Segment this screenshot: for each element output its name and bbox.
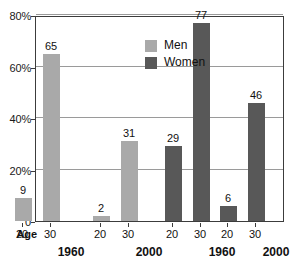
x-axis: Age 20302030203020301960200019602000 <box>0 223 294 264</box>
x-axis-year-label: 1960 <box>41 245 101 259</box>
bar-value-label: 77 <box>181 9 221 21</box>
y-axis-tick-label: 60% <box>0 62 31 74</box>
x-axis-age-label: 20 <box>215 228 239 240</box>
bar-women-1960-age20 <box>165 146 182 221</box>
plot-area: 9652312977646 MenWomen <box>35 16 284 222</box>
x-axis-year-label: 2000 <box>246 245 294 259</box>
x-axis-tick-mark <box>100 223 101 227</box>
legend-label: Men <box>164 39 187 52</box>
bar-chart: 80%60%40%20%0 9652312977646 MenWomen Age… <box>0 0 294 264</box>
x-axis-tick-mark <box>255 223 256 227</box>
x-axis-age-label: 30 <box>188 228 212 240</box>
bar-men-2000-age20 <box>93 216 110 221</box>
y-axis-tick-label: 20% <box>0 165 31 177</box>
x-axis-age-label: 30 <box>243 228 267 240</box>
legend-item-men: Men <box>145 39 205 52</box>
bar-value-label: 29 <box>153 132 193 144</box>
bar-women-2000-age20 <box>220 206 237 221</box>
gridline <box>36 117 283 118</box>
legend-swatch-women-icon <box>145 57 157 69</box>
legend-label: Women <box>164 56 205 69</box>
x-axis-tick-mark <box>22 223 23 227</box>
x-axis-year-label: 2000 <box>119 245 179 259</box>
x-axis-tick-mark <box>128 223 129 227</box>
bar-men-1960-age20 <box>15 198 32 221</box>
x-axis-age-label: 20 <box>10 228 34 240</box>
bar-value-label: 6 <box>208 192 248 204</box>
legend: MenWomen <box>145 39 205 69</box>
x-axis-tick-mark <box>227 223 228 227</box>
x-axis-year-label: 1960 <box>192 245 252 259</box>
y-axis-tick-label: 40% <box>0 113 31 125</box>
x-axis-age-label: 20 <box>160 228 184 240</box>
bar-value-label: 46 <box>236 89 276 101</box>
x-axis-tick-mark <box>50 223 51 227</box>
bar-women-2000-age30 <box>248 103 265 221</box>
x-axis-tick-mark <box>200 223 201 227</box>
bar-value-label: 31 <box>109 127 149 139</box>
bar-men-1960-age30 <box>43 54 60 221</box>
x-axis-tick-mark <box>172 223 173 227</box>
legend-swatch-men-icon <box>145 40 157 52</box>
bar-men-2000-age30 <box>121 141 138 221</box>
bar-value-label: 2 <box>81 202 121 214</box>
legend-item-women: Women <box>145 56 205 69</box>
y-axis-tick-label: 80% <box>0 10 31 22</box>
x-axis-age-label: 30 <box>116 228 140 240</box>
bar-value-label: 9 <box>3 184 43 196</box>
gridline <box>36 169 283 170</box>
bar-value-label: 65 <box>31 40 71 52</box>
gridline <box>36 14 283 15</box>
x-axis-age-label: 30 <box>38 228 62 240</box>
x-axis-age-label: 20 <box>88 228 112 240</box>
